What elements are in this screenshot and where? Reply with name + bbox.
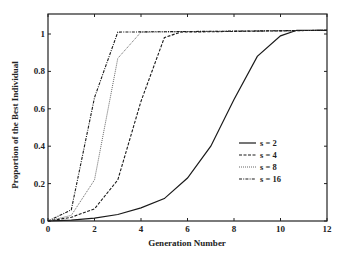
axis-ticks: 02468101200.20.40.60.81 [34, 14, 332, 234]
y-tick-label: 0.4 [34, 141, 46, 151]
legend-label: s = 2 [260, 138, 277, 148]
x-tick-label: 4 [139, 224, 144, 234]
x-tick-label: 0 [46, 224, 51, 234]
y-tick-label: 1 [41, 29, 46, 39]
x-tick-label: 8 [232, 224, 237, 234]
legend-label: s = 16 [260, 174, 281, 184]
legend: s = 2s = 4s = 8s = 16 [239, 138, 281, 184]
series-line-3 [48, 30, 327, 221]
line-chart: 02468101200.20.40.60.81 Generation Numbe… [0, 0, 345, 258]
data-series [48, 30, 327, 221]
legend-label: s = 4 [260, 150, 277, 160]
x-tick-label: 2 [92, 224, 97, 234]
y-tick-label: 0.8 [34, 66, 46, 76]
y-tick-label: 0.6 [34, 104, 46, 114]
series-line-0 [48, 30, 327, 221]
series-line-2 [48, 30, 327, 221]
x-tick-label: 12 [323, 224, 333, 234]
y-tick-label: 0.2 [34, 179, 46, 189]
x-tick-label: 10 [276, 224, 286, 234]
x-axis-label: Generation Number [148, 238, 226, 248]
x-tick-label: 6 [185, 224, 190, 234]
legend-label: s = 8 [260, 162, 277, 172]
y-tick-label: 0 [41, 216, 46, 226]
y-axis-label: Proportion of the Best Individual [10, 61, 20, 189]
series-line-1 [48, 30, 327, 221]
